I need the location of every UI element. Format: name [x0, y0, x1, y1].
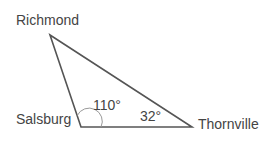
angle-label-salsburg: 110° — [93, 97, 121, 113]
triangle — [50, 35, 192, 127]
vertex-label-salsburg: Salsburg — [16, 111, 71, 127]
triangle-diagram: Richmond Salsburg Thornville 110° 32° — [0, 0, 272, 149]
angle-label-thornville: 32° — [140, 108, 161, 124]
vertex-label-thornville: Thornville — [198, 116, 259, 132]
vertex-label-richmond: Richmond — [16, 12, 79, 28]
